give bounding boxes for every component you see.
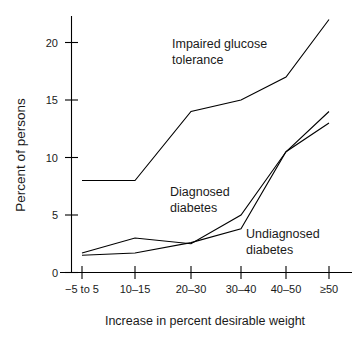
x-axis-title: Increase in percent desirable weight: [105, 314, 306, 328]
y-tick-label-15: 15: [46, 94, 58, 106]
y-tick-label-10: 10: [46, 152, 58, 164]
annotation-diagnosed-diabetes: Diagnosed diabetes: [170, 185, 230, 215]
y-tick-label-0: 0: [52, 267, 58, 279]
y-tick-label-20: 20: [46, 37, 58, 49]
annotation-igt-line-2: tolerance: [172, 53, 223, 67]
annotation-impaired-glucose-tolerance: Impaired glucose tolerance: [172, 37, 267, 67]
y-ticks-group: 0 5 10 15 20: [46, 37, 78, 279]
annotation-undiagnosed-line-2: diabetes: [246, 243, 293, 257]
y-tick-label-5: 5: [52, 209, 58, 221]
chart-figure: 0 5 10 15 20 −5 to 5 10–15 20–30 30–40 4…: [0, 0, 360, 341]
x-tick-label-3: 30–40: [226, 283, 257, 295]
annotation-diagnosed-line-2: diabetes: [170, 201, 217, 215]
x-tick-label-4: 40–50: [271, 283, 302, 295]
x-tick-label-0: −5 to 5: [65, 283, 99, 295]
annotation-undiagnosed-line-1: Undiagnosed: [246, 227, 320, 241]
x-ticks-group: −5 to 5 10–15 20–30 30–40 40–50 ≥50: [65, 266, 338, 295]
annotation-diagnosed-line-1: Diagnosed: [170, 185, 230, 199]
x-tick-label-5: ≥50: [320, 283, 338, 295]
line-chart-svg: 0 5 10 15 20 −5 to 5 10–15 20–30 30–40 4…: [0, 0, 360, 341]
x-tick-label-2: 20–30: [176, 283, 207, 295]
x-tick-label-1: 10–15: [120, 283, 151, 295]
y-axis-title: Percent of persons: [13, 98, 28, 212]
annotation-igt-line-1: Impaired glucose: [172, 37, 267, 51]
annotation-undiagnosed-diabetes: Undiagnosed diabetes: [246, 227, 320, 257]
